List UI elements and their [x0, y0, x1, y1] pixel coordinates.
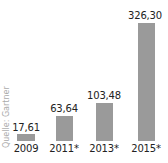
- bar-chart: Quelle: Gartner 17,61 2009 63,64 2011* 1…: [0, 0, 168, 163]
- bar-2011: [56, 116, 73, 141]
- category-label-2013: 2013*: [82, 143, 126, 154]
- category-label-2015: 2015*: [124, 143, 168, 154]
- value-label-2015: 326,30: [120, 10, 168, 21]
- value-label-2009: 17,61: [1, 122, 51, 133]
- bar-2015: [138, 23, 155, 141]
- bar-2013: [96, 103, 113, 141]
- value-label-2013: 103,48: [79, 90, 129, 101]
- category-label-2011: 2011*: [42, 143, 86, 154]
- value-label-2011: 63,64: [39, 103, 89, 114]
- source-note: Quelle: Gartner: [2, 86, 11, 148]
- bar-2009: [17, 134, 35, 141]
